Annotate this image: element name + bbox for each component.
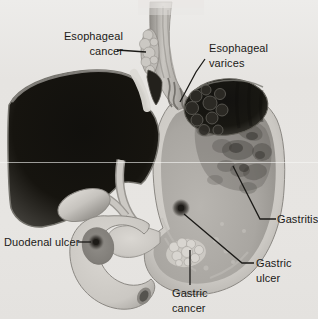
label-gastric-cancer-line2: cancer — [172, 301, 208, 316]
label-gastritis: Gastritis — [277, 212, 318, 226]
label-gastric-ulcer-line1: Gastric — [256, 256, 292, 271]
label-esophageal-varices-line2: varices — [209, 56, 268, 71]
label-gastric-ulcer: Gastric ulcer — [256, 256, 292, 285]
label-esophageal-varices-line1: Esophageal — [209, 41, 268, 56]
medical-illustration: Esophageal cancer Esophageal varices Gas… — [0, 0, 318, 319]
label-gastritis-text: Gastritis — [277, 212, 318, 226]
label-esophageal-varices: Esophageal varices — [209, 41, 268, 70]
label-duodenal-ulcer: Duodenal ulcer — [4, 235, 79, 249]
label-esophageal-cancer-line2: cancer — [55, 44, 123, 59]
gastric-ulcer-spot — [172, 199, 190, 217]
label-gastric-ulcer-line2: ulcer — [256, 271, 292, 286]
label-gastric-cancer-line1: Gastric — [172, 286, 208, 301]
label-esophageal-cancer-line1: Esophageal — [55, 29, 123, 44]
esophagus-top-fade — [138, 0, 204, 8]
label-gastric-cancer: Gastric cancer — [172, 286, 208, 315]
esophagus-top-fade-2 — [138, 8, 204, 15]
label-esophageal-cancer: Esophageal cancer — [55, 29, 123, 58]
label-duodenal-ulcer-text: Duodenal ulcer — [4, 235, 79, 249]
